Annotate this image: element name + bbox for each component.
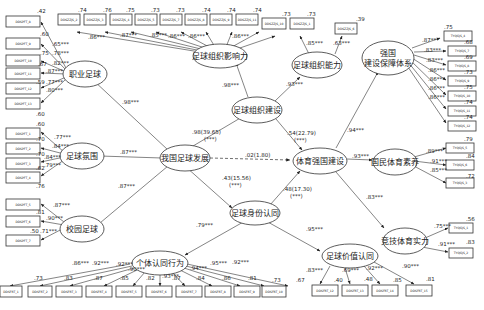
svg-text:DDSZZJS_10: DDSZZJS_10: [265, 22, 284, 26]
svg-text:.86***: .86***: [428, 85, 445, 91]
svg-text:.91***: .91***: [438, 241, 455, 247]
svg-text:.60: .60: [40, 31, 49, 37]
svg-text:.69: .69: [464, 54, 473, 60]
latent-label: 校园足球: [66, 224, 98, 234]
latent-fazhan-node: 我国足球发展: [160, 145, 210, 171]
svg-text:.87***: .87***: [120, 149, 137, 155]
svg-text:.56: .56: [466, 216, 475, 222]
svg-text:DDSZZJS_8: DDSZZJS_8: [188, 18, 205, 22]
latent-label: 我国足球发展: [161, 153, 209, 163]
svg-text:.59: .59: [36, 79, 45, 85]
svg-text:.93***: .93***: [352, 153, 369, 159]
svg-text:.94***: .94***: [190, 265, 207, 271]
svg-text:DDSFRT_5: DDSFRT_5: [121, 290, 136, 294]
svg-text:DDSFRT_12: DDSFRT_12: [316, 289, 333, 293]
svg-text:DDSFRT_15: DDSFRT_15: [410, 289, 427, 293]
svg-text:DDSPFT_12: DDSPFT_12: [14, 87, 31, 91]
svg-text:.81: .81: [248, 275, 257, 281]
svg-text:TYQGJS_10: TYQGJS_10: [453, 94, 471, 98]
svg-text:.73: .73: [176, 7, 185, 13]
svg-text:DDSPFT_6: DDSPFT_6: [15, 220, 30, 224]
svg-text:DDSFRT_8: DDSFRT_8: [210, 290, 225, 294]
svg-text:.69***: .69***: [342, 267, 359, 273]
svg-text:TYQGJS_11: TYQGJS_11: [453, 109, 471, 113]
svg-text:.92***: .92***: [366, 265, 383, 271]
svg-text:.87***: .87***: [118, 183, 135, 189]
svg-text:.75: .75: [126, 7, 135, 13]
indicators-jiazhi: DDSFRT_12.40 DDSFRT_13.48 DDSFRT_14.85 D…: [306, 263, 435, 296]
indicators-yingxiang: DDSZZJS_2.74 DDSZZJS_3.76 DDSZZJS_4.75 D…: [58, 7, 291, 40]
svg-text:DDSPFT_2: DDSPFT_2: [15, 147, 30, 151]
svg-text:TYQGJS_3: TYQGJS_3: [452, 181, 468, 185]
svg-text:.83***: .83***: [426, 57, 443, 63]
svg-text:TYQGJS_9: TYQGJS_9: [454, 79, 470, 83]
svg-text:.63***: .63***: [333, 40, 350, 46]
svg-text:.84: .84: [466, 153, 475, 159]
svg-text:DDSZZJS_6: DDSZZJS_6: [338, 27, 355, 31]
latent-label: 足球氛围: [66, 151, 98, 161]
svg-text:.83***: .83***: [366, 194, 383, 200]
latent-label: 国民体育素养: [371, 157, 419, 167]
svg-text:.83: .83: [64, 275, 73, 281]
svg-text:TYQGJS_4: TYQGJS_4: [450, 34, 466, 38]
svg-text:.82***: .82***: [52, 60, 69, 66]
svg-text:DDSPFT_11: DDSPFT_11: [14, 72, 31, 76]
svg-text:.79***: .79***: [44, 162, 61, 168]
svg-text:DDSPFT_10: DDSPFT_10: [14, 59, 31, 63]
svg-text:DDSFRT_7: DDSFRT_7: [181, 290, 196, 294]
svg-text:.73: .73: [282, 11, 291, 17]
svg-text:DDSFRT_10: DDSFRT_10: [265, 290, 282, 294]
svg-text:TYQGJS_5: TYQGJS_5: [452, 146, 468, 150]
svg-text:.86***: .86***: [88, 34, 105, 40]
latent-yingxiang-node: 足球组织影响力: [192, 44, 248, 68]
svg-text:.77***: .77***: [54, 134, 71, 140]
svg-text:(***): (***): [204, 136, 217, 142]
svg-text:(***): (***): [294, 137, 307, 143]
svg-text:.92***: .92***: [92, 260, 109, 266]
svg-text:TYQGJS_7: TYQGJS_7: [454, 49, 470, 53]
latent-label: 建设保障体系: [364, 58, 412, 68]
svg-text:.76: .76: [103, 7, 112, 13]
svg-text:.98***: .98***: [222, 82, 239, 88]
svg-text:.85***: .85***: [306, 40, 323, 46]
latent-guomin-node: 国民体育素养: [371, 149, 419, 175]
svg-text:.90***: .90***: [46, 215, 63, 221]
svg-text:DDSPFT_1: DDSPFT_1: [15, 132, 30, 136]
latent-label: 足球组织能力: [293, 60, 341, 70]
svg-text:DDSFRT_1: DDSFRT_1: [3, 290, 18, 294]
svg-text:.85: .85: [120, 275, 129, 281]
svg-text:.60: .60: [36, 111, 45, 117]
svg-text:.74: .74: [253, 7, 262, 13]
svg-text:.73: .73: [272, 277, 281, 283]
svg-text:.84***: .84***: [52, 143, 69, 149]
svg-text:TYQGJS_2: TYQGJS_2: [453, 251, 469, 255]
svg-text:.98***: .98***: [122, 99, 139, 105]
svg-text:.89***: .89***: [426, 148, 443, 154]
svg-text:.75: .75: [40, 50, 49, 56]
svg-text:.74: .74: [78, 7, 87, 13]
svg-text:.86***: .86***: [72, 260, 89, 266]
svg-text:DDSZZJS_11: DDSZZJS_11: [238, 18, 257, 22]
svg-text:.90***: .90***: [402, 263, 419, 269]
svg-text:.39: .39: [356, 16, 365, 22]
latent-label: 体育强国建设: [296, 156, 344, 166]
svg-text:.87: .87: [94, 275, 103, 281]
svg-text:.83***: .83***: [306, 267, 323, 273]
latent-nengli-node: 足球组织能力: [292, 52, 342, 78]
svg-text:DDSPFT_9: DDSPFT_9: [15, 42, 30, 46]
svg-text:.68: .68: [464, 39, 473, 45]
latent-label: 足球价值认同: [326, 251, 374, 261]
svg-text:.02(1.80): .02(1.80): [245, 152, 270, 158]
svg-text:.81: .81: [426, 276, 435, 282]
indicators-baozhang: TYQGJS_4.75 TYQGJS_7.68 TYQGJS_8.69 TYQG…: [422, 24, 476, 131]
svg-text:DDSPFT_3: DDSPFT_3: [15, 162, 30, 166]
svg-text:.85***: .85***: [150, 32, 167, 38]
svg-text:.93***: .93***: [162, 273, 179, 279]
svg-text:.75***: .75***: [434, 223, 451, 229]
svg-text:.83***: .83***: [424, 47, 441, 53]
latent-zhiye-node: 职业足球: [63, 61, 107, 87]
latent-baozhang-node: 强国 建设保障体系: [362, 41, 414, 75]
svg-text:.85: .85: [393, 277, 402, 283]
sem-path-diagram: 职业足球 足球氛围 校园足球 我国足球发展 足球组织影响力 足球组织建设 足球组…: [0, 0, 484, 310]
svg-text:.75: .75: [464, 84, 473, 90]
